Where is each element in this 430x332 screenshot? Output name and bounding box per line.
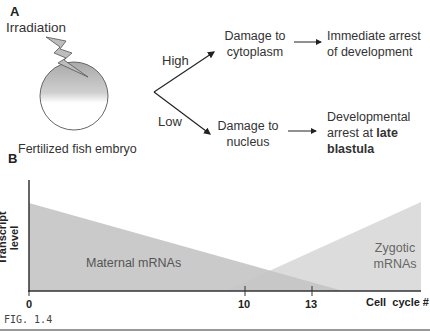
low-outcome-line1: Damage to [208,118,288,134]
high-outcome-line2: cytoplasm [212,44,298,60]
low-result-line1: Developmental [327,109,430,125]
tick-10: 10 [238,298,250,310]
tick-0: 0 [26,298,32,310]
high-outcome-line1: Damage to [212,28,298,44]
x-axis-label: Cell cycle # [366,296,429,308]
panel-b-label: B [8,151,17,166]
y-axis-label: Transcript level [0,198,20,278]
tick-13: 13 [305,298,317,310]
branch-high-label: High [162,53,189,68]
embryo-label: Fertilized fish embryo [18,142,137,156]
high-result-line1: Immediate arrest [327,28,430,44]
low-result: Developmental arrest at late blastula [327,109,430,157]
low-result-line2: arrest at late [327,125,430,141]
figure-caption: FIG. 1.4 [4,314,52,325]
low-outcome-line2: nucleus [208,134,288,150]
maternal-label: Maternal mRNAs [86,256,181,270]
embryo-circle [40,62,108,130]
high-result-line2: of development [327,44,430,60]
zygotic-label: Zygotic mRNAs [365,240,425,272]
branch-low-label: Low [158,114,182,129]
high-result: Immediate arrest of development [327,28,430,60]
low-result-line3: blastula [327,141,430,157]
low-outcome: Damage to nucleus [208,118,288,150]
high-outcome: Damage to cytoplasm [212,28,298,60]
